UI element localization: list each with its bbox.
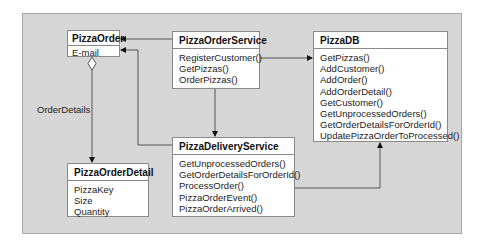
class-member: GetOrderDetailsForOrderId() (179, 169, 288, 180)
class-pizza-db[interactable]: PizzaDB GetPizzas() AddCustomer() AddOrd… (313, 31, 448, 142)
class-name: PizzaOrder (68, 31, 119, 46)
class-name: PizzaDB (314, 32, 447, 49)
class-name: PizzaOrderService (173, 32, 259, 49)
class-member: AddCustomer() (320, 63, 441, 74)
class-member: ProcessOrder() (179, 180, 288, 191)
class-member: GetPizzas() (320, 52, 441, 63)
class-member: GetPizzas() (179, 63, 253, 74)
class-pizza-delivery-service[interactable]: PizzaDeliveryService GetUnprocessedOrder… (172, 137, 295, 217)
class-member: GetOrderDetailsForOrderId() (320, 119, 441, 130)
class-member: Size (74, 195, 142, 206)
class-member: AddOrder() (320, 74, 441, 85)
class-member: E-mail (72, 47, 115, 58)
class-member: PizzaOrderEvent() (179, 192, 288, 203)
class-member: OrderPizzas() (179, 74, 253, 85)
class-name: PizzaOrderDetail (68, 164, 148, 181)
class-name: PizzaDeliveryService (173, 138, 294, 155)
class-pizza-order-detail[interactable]: PizzaOrderDetail PizzaKey Size Quantity (67, 163, 149, 217)
class-member: GetUnprocessedOrders() (320, 108, 441, 119)
class-member: GetCustomer() (320, 97, 441, 108)
class-member: RegisterCustomer() (179, 52, 253, 63)
class-member: AddOrderDetail() (320, 86, 441, 97)
class-member: Quantity (74, 206, 142, 217)
class-member: UpdatePizzaOrderToProcessed() (320, 130, 441, 141)
class-member: PizzaKey (74, 184, 142, 195)
order-details-label: OrderDetails (37, 104, 90, 115)
class-member: GetUnprocessedOrders() (179, 158, 288, 169)
class-pizza-order[interactable]: PizzaOrder E-mail (67, 30, 120, 57)
class-member: PizzaOrderArrived() (179, 203, 288, 214)
class-pizza-order-service[interactable]: PizzaOrderService RegisterCustomer() Get… (172, 31, 260, 89)
